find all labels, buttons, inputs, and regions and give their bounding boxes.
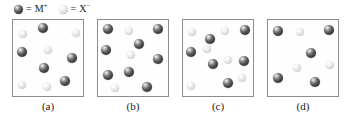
panel-a-label: (a) — [12, 100, 84, 112]
anion-sphere — [326, 61, 334, 69]
legend: = M+ = X− — [14, 2, 90, 16]
legend-species-cation: M — [35, 3, 44, 14]
cation-sphere — [186, 47, 196, 57]
panel-a: (a) — [12, 19, 84, 97]
panel-c: (c) — [182, 19, 254, 97]
legend-equals-anion: = — [71, 4, 77, 14]
cation-sphere — [273, 73, 283, 83]
cation-sphere — [39, 63, 49, 73]
cation-sphere — [153, 54, 163, 64]
anion-sphere — [44, 46, 52, 54]
anion-sphere — [293, 64, 301, 72]
cation-sphere — [142, 82, 152, 92]
cation-sphere — [103, 24, 113, 34]
cation-sphere — [38, 23, 48, 33]
panel-b-label: (b) — [97, 100, 169, 112]
cation-sphere — [60, 76, 70, 86]
legend-label-cation: M+ — [35, 4, 48, 14]
cation-sphere — [310, 77, 320, 87]
anion-sphere — [238, 74, 246, 82]
panel-d-label: (d) — [267, 100, 339, 112]
legend-charge-anion: − — [86, 2, 90, 10]
anion-sphere — [127, 51, 135, 59]
anion-sphere — [224, 56, 232, 64]
anion-sphere — [296, 28, 304, 36]
anion-sphere — [72, 29, 80, 37]
panel-b-box — [97, 19, 169, 97]
anion-sphere — [187, 82, 195, 90]
ionic-solution-figure: = M+ = X− (a) (b) (c) (d) — [0, 0, 359, 126]
panel-d: (d) — [267, 19, 339, 97]
legend-item-cation: = M+ — [14, 2, 48, 16]
cation-sphere — [223, 78, 233, 88]
panel-a-box — [12, 19, 84, 97]
anion-sphere — [125, 27, 133, 35]
anion-sphere — [221, 27, 229, 35]
anion-sphere — [18, 81, 26, 89]
panel-c-label: (c) — [182, 100, 254, 112]
cation-sphere — [273, 26, 283, 36]
cation-sphere — [306, 48, 316, 58]
legend-label-anion: X− — [79, 4, 90, 14]
cation-sphere — [103, 70, 113, 80]
cation-sphere — [324, 25, 334, 35]
panel-d-box — [267, 19, 339, 97]
anion-sphere — [188, 28, 196, 36]
anion-sphere — [111, 84, 119, 92]
cation-sphere — [153, 24, 163, 34]
legend-item-anion: = X− — [59, 2, 91, 16]
cation-sphere — [239, 56, 249, 66]
cation-sphere — [124, 67, 134, 77]
cation-sphere — [134, 39, 144, 49]
legend-equals-cation: = — [26, 4, 32, 14]
legend-charge-cation: + — [44, 2, 48, 10]
cation-sphere — [208, 59, 218, 69]
cation-sphere — [17, 47, 27, 57]
panel-b: (b) — [97, 19, 169, 97]
light-sphere-icon — [59, 5, 68, 14]
panel-c-box — [182, 19, 254, 97]
cation-sphere — [240, 25, 250, 35]
cation-sphere — [205, 34, 215, 44]
dark-sphere-icon — [14, 5, 23, 14]
anion-sphere — [19, 30, 27, 38]
cation-sphere — [67, 53, 77, 63]
cation-sphere — [101, 45, 111, 55]
anion-sphere — [203, 45, 211, 53]
anion-sphere — [43, 83, 51, 91]
